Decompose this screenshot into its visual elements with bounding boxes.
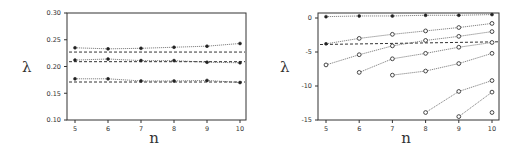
- left-y-tick-label: 0.10: [47, 116, 61, 124]
- right-series-6-point: [424, 111, 428, 115]
- right-y-tick-label: -10: [301, 82, 312, 90]
- right-series-3-point: [324, 63, 328, 67]
- right-series-3-line: [326, 32, 492, 65]
- left-x-tick-label: 9: [205, 125, 209, 133]
- right-series-2-line: [326, 23, 492, 43]
- right-series-2-point: [325, 42, 328, 45]
- left-y-tick-label: 0.25: [47, 36, 61, 44]
- right-series-2-point: [457, 26, 461, 30]
- left-y-tick-label: 0.15: [47, 90, 61, 98]
- right-series-1-point: [358, 14, 361, 17]
- left-y-axis: 0.100.150.200.250.30: [47, 9, 67, 124]
- left-y-tick-label: 0.20: [47, 63, 61, 71]
- right-series-8-point: [490, 111, 494, 115]
- left-x-axis-title: n: [149, 129, 159, 147]
- right-series-5-point: [457, 62, 461, 66]
- right-y-tick-label: -15: [301, 116, 312, 124]
- right-series-3-point: [457, 34, 461, 38]
- right-series-6-point: [457, 90, 461, 94]
- right-y-tick-label: 0: [308, 14, 312, 22]
- right-y-axis: -15-10-50: [301, 14, 318, 124]
- right-series-7-point: [490, 90, 494, 94]
- left-series-1-point: [74, 46, 77, 49]
- right-series-7-line: [459, 92, 492, 116]
- left-series-3-point: [107, 77, 110, 80]
- left-series-2-point: [206, 61, 209, 64]
- right-series-1-point: [457, 14, 460, 17]
- right-series-2-point: [490, 22, 494, 26]
- right-series-6-point: [490, 79, 494, 83]
- left-series-2-point: [74, 59, 77, 62]
- right-series-5-point: [391, 73, 395, 77]
- right-chart-panel: -15-10-50 5678910 λ n: [280, 13, 499, 147]
- left-x-tick-label: 5: [73, 125, 77, 133]
- left-y-tick-label: 0.30: [47, 9, 61, 17]
- right-series-3-point: [391, 44, 395, 48]
- right-series-1-point: [424, 14, 427, 17]
- right-series-4-point: [424, 51, 428, 55]
- right-series-2-point: [391, 32, 395, 36]
- right-ref-1-dashed-line: [320, 42, 498, 45]
- left-series-1-point: [140, 47, 143, 50]
- right-series-2-point: [357, 37, 361, 41]
- left-series-2-line: [75, 59, 240, 63]
- left-plot-frame: [67, 13, 246, 120]
- right-x-tick-label: 9: [457, 125, 461, 133]
- left-series-2-point: [239, 61, 242, 64]
- right-series-4-point: [490, 41, 494, 45]
- right-series-3-point: [490, 30, 494, 34]
- left-x-tick-label: 8: [172, 125, 176, 133]
- left-series-3-point: [74, 77, 77, 80]
- right-series-4-point: [357, 71, 361, 75]
- left-series-3-point: [239, 81, 242, 84]
- right-y-axis-title: λ: [280, 58, 290, 76]
- left-series-2-point: [107, 58, 110, 61]
- right-series-4-line: [359, 42, 492, 72]
- left-series-1-point: [206, 45, 209, 48]
- right-series-1-line: [326, 15, 492, 17]
- right-x-axis-title: n: [401, 129, 411, 147]
- right-x-tick-label: 6: [357, 125, 361, 133]
- left-series-2-point: [140, 59, 143, 62]
- right-series-5-point: [424, 69, 428, 73]
- figure: 0.100.150.200.250.30 5678910 λ n -15-10-…: [0, 0, 522, 150]
- right-series-5-point: [490, 51, 494, 55]
- left-x-tick-label: 6: [106, 125, 110, 133]
- right-series-2-point: [424, 29, 428, 33]
- right-series-7-point: [457, 115, 461, 119]
- right-series-1-point: [491, 13, 494, 16]
- left-series-1-point: [107, 47, 110, 50]
- left-x-tick-label: 10: [236, 125, 244, 133]
- left-x-tick-label: 7: [139, 125, 143, 133]
- right-plot-frame: [318, 13, 499, 120]
- right-series: [324, 13, 494, 118]
- right-series-1-point: [325, 15, 328, 18]
- right-x-tick-label: 10: [488, 125, 496, 133]
- left-y-axis-title: λ: [22, 58, 32, 76]
- right-x-tick-label: 8: [424, 125, 428, 133]
- right-series-3-point: [357, 53, 361, 57]
- left-series-3-point: [173, 79, 176, 82]
- right-series-3-point: [424, 39, 428, 43]
- right-series-4-point: [391, 57, 395, 61]
- left-series-3-point: [140, 79, 143, 82]
- left-reference-lines: [69, 52, 245, 82]
- left-series-2-point: [173, 59, 176, 62]
- left-series-1-point: [239, 42, 242, 45]
- right-reference-lines: [320, 42, 498, 45]
- right-x-tick-label: 7: [390, 125, 394, 133]
- right-x-tick-label: 5: [324, 125, 328, 133]
- left-series-1-line: [75, 43, 240, 48]
- right-series-6-line: [426, 81, 492, 113]
- left-series-1-point: [173, 46, 176, 49]
- right-series-1-point: [391, 14, 394, 17]
- left-series: [74, 42, 242, 84]
- right-series-4-point: [457, 45, 461, 49]
- right-y-tick-label: -5: [306, 48, 312, 56]
- left-chart-panel: 0.100.150.200.250.30 5678910 λ n: [22, 9, 246, 147]
- left-series-3-point: [206, 79, 209, 82]
